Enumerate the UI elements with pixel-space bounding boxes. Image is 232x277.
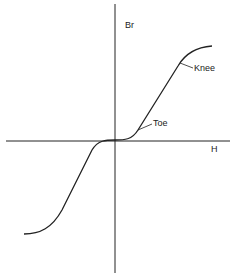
bh-curve-diagram: Br H Knee Toe [0, 0, 232, 277]
x-axis-label: H [211, 144, 218, 154]
y-axis-label: Br [125, 20, 134, 30]
knee-label: Knee [194, 63, 215, 73]
magnetization-curve [24, 46, 212, 234]
toe-label: Toe [153, 118, 168, 128]
knee-leader-line [180, 63, 193, 68]
